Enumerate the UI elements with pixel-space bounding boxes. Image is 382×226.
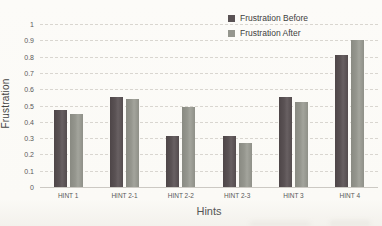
bar-frustration-after-hint-2-3 — [239, 143, 252, 187]
y-tick-label-0.5: 0.5 — [0, 102, 34, 109]
bar-frustration-before-hint-2-1 — [110, 97, 123, 187]
y-tick-label-0.1: 0.1 — [0, 167, 34, 174]
bar-frustration-after-hint-2-1 — [126, 99, 139, 187]
x-tick-label-hint-2-1: HINT 2-1 — [111, 192, 137, 199]
x-axis-title: Hints — [40, 205, 378, 217]
bar-group-hint-2-1 — [96, 97, 152, 187]
x-tick-label-hint-3: HINT 3 — [283, 192, 303, 199]
legend-label: Frustration After — [240, 28, 300, 38]
scan-artifact — [250, 221, 310, 226]
y-tick-label-1: 1 — [0, 21, 34, 28]
x-tick-label-hint-1: HINT 1 — [58, 192, 78, 199]
x-tick-label-hint-2-2: HINT 2-2 — [168, 192, 194, 199]
x-tick-label-hint-2-3: HINT 2-3 — [224, 192, 250, 199]
x-tick-label-hint-4: HINT 4 — [340, 192, 360, 199]
bar-group-hint-3 — [265, 97, 321, 187]
bar-group-hint-2-2 — [153, 107, 209, 187]
bar-group-hint-4 — [322, 40, 378, 187]
y-tick-label-0.6: 0.6 — [0, 86, 34, 93]
scan-artifact — [330, 220, 370, 226]
gridline-y-0 — [40, 187, 378, 188]
bar-group-hint-2-3 — [209, 136, 265, 187]
legend-label: Frustration Before — [240, 13, 308, 23]
bar-frustration-after-hint-3 — [295, 102, 308, 187]
y-tick-label-0.7: 0.7 — [0, 69, 34, 76]
bar-frustration-before-hint-1 — [54, 110, 67, 187]
y-tick-label-0.2: 0.2 — [0, 151, 34, 158]
bar-frustration-before-hint-4 — [335, 55, 348, 187]
legend-marker-icon — [228, 30, 235, 37]
y-tick-label-0.9: 0.9 — [0, 37, 34, 44]
bar-frustration-before-hint-3 — [279, 97, 292, 187]
legend-marker-icon — [228, 15, 235, 22]
bar-frustration-before-hint-2-2 — [166, 136, 179, 187]
bar-frustration-after-hint-2-2 — [182, 107, 195, 187]
chart-figure: Frustration 00.10.20.30.40.50.60.70.80.9… — [0, 0, 382, 226]
bar-group-hint-1 — [40, 110, 96, 187]
bar-frustration-after-hint-1 — [70, 114, 83, 187]
bar-frustration-before-hint-2-3 — [223, 136, 236, 187]
legend: Frustration BeforeFrustration After — [228, 13, 308, 38]
plot-area — [40, 24, 378, 187]
legend-item-frustration-before: Frustration Before — [228, 13, 308, 23]
gridline-y-1 — [40, 24, 378, 25]
y-tick-label-0.4: 0.4 — [0, 118, 34, 125]
y-tick-label-0: 0 — [0, 184, 34, 191]
legend-item-frustration-after: Frustration After — [228, 28, 308, 38]
bar-frustration-after-hint-4 — [351, 40, 364, 187]
y-tick-label-0.3: 0.3 — [0, 135, 34, 142]
y-tick-label-0.8: 0.8 — [0, 53, 34, 60]
